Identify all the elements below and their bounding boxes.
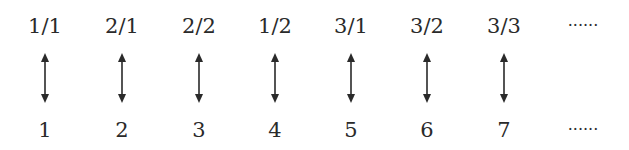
- fraction-label: 2/1: [92, 14, 152, 38]
- double-arrow-icon: [191, 52, 207, 104]
- natural-number-label: 1: [15, 118, 75, 142]
- column-2: 2/12: [92, 0, 152, 150]
- double-arrow-icon: [267, 52, 283, 104]
- natural-number-label: 4: [245, 118, 305, 142]
- fraction-label: 2/2: [169, 14, 229, 38]
- double-arrow-icon: [343, 52, 359, 104]
- column-1: 1/11: [15, 0, 75, 150]
- natural-number-label: 5: [321, 118, 381, 142]
- double-arrow-icon: [37, 52, 53, 104]
- column-3: 2/23: [169, 0, 229, 150]
- column-6: 3/26: [397, 0, 457, 150]
- natural-number-label: 3: [169, 118, 229, 142]
- column-4: 1/24: [245, 0, 305, 150]
- double-arrow-icon: [419, 52, 435, 104]
- double-arrow-icon: [496, 52, 512, 104]
- natural-number-label: 2: [92, 118, 152, 142]
- natural-number-label: 7: [474, 118, 534, 142]
- fraction-label: 1/2: [245, 14, 305, 38]
- fraction-label: 3/3: [474, 14, 534, 38]
- fraction-label: 1/1: [15, 14, 75, 38]
- double-arrow-icon: [114, 52, 130, 104]
- fraction-label: 3/2: [397, 14, 457, 38]
- column-8: ············: [553, 0, 613, 150]
- column-5: 3/15: [321, 0, 381, 150]
- column-7: 3/37: [474, 0, 534, 150]
- ellipsis: ······: [553, 14, 613, 38]
- ellipsis: ······: [553, 118, 613, 142]
- natural-number-label: 6: [397, 118, 457, 142]
- fraction-label: 3/1: [321, 14, 381, 38]
